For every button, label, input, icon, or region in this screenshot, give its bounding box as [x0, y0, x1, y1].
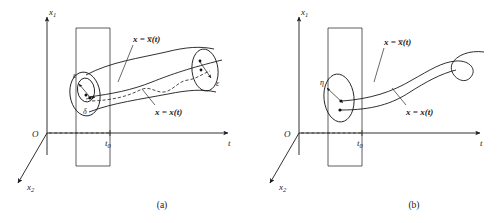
panel-a-endpoint-dot-lower	[200, 69, 203, 72]
panel-a-epsilon-arrow-left	[79, 84, 89, 96]
panel-a-label-x1: x1	[48, 7, 56, 18]
panel-a-label-epsilon-right: ε	[216, 79, 220, 88]
panel-a: x1 x2 t O t0 ε δ ε x = x̅(t) x = x(t) (a…	[18, 7, 231, 211]
panel-a-tube-top-edge	[86, 47, 214, 75]
panel-b-leader-perturbed	[374, 48, 384, 82]
panel-b-label-origin: O	[284, 129, 291, 139]
panel-b-label-t0: t0	[357, 138, 364, 149]
panel-a-label-perturbed-curve: x = x̅(t)	[132, 34, 160, 44]
panel-a-label-t0: t0	[105, 138, 112, 149]
panel-a-caption: (a)	[157, 200, 168, 211]
panel-b-label-perturbed-curve: x = x̅(t)	[383, 37, 411, 47]
panel-b-label-x1: x1	[300, 7, 308, 18]
panel-b-eta-ellipse	[322, 73, 357, 124]
panel-b-axis-x2	[270, 133, 299, 183]
panel-b-label-x2: x2	[278, 182, 287, 193]
panel-b-label-eta: η	[320, 78, 324, 87]
figure-root: x1 x2 t O t0 ε δ ε x = x̅(t) x = x(t) (a…	[0, 0, 498, 223]
panel-a-delta-ellipse-left	[76, 77, 96, 103]
panel-a-axis-x2	[18, 133, 47, 183]
panel-a-label-x2: x2	[26, 182, 35, 193]
panel-a-label-epsilon-left: ε	[73, 71, 77, 80]
panel-b-caption: (b)	[408, 200, 419, 211]
panel-b-label-nominal-curve: x = x(t)	[405, 107, 433, 117]
panel-a-label-t: t	[228, 138, 231, 148]
stability-diagram: x1 x2 t O t0 ε δ ε x = x̅(t) x = x(t) (a…	[0, 0, 498, 223]
panel-b-leader-nominal	[392, 88, 406, 105]
panel-a-endpoint-dot-upper	[199, 60, 202, 63]
panel-a-label-delta-left: δ	[83, 107, 87, 116]
panel-a-leader-perturbed	[118, 45, 133, 82]
panel-b: x1 x2 t O t0 η x = x̅(t) x = x(t) (b)	[270, 7, 484, 211]
panel-a-label-nominal-curve: x = x(t)	[154, 107, 182, 117]
panel-b-perturbed-trajectory	[342, 52, 484, 101]
panel-b-label-t: t	[480, 138, 483, 148]
panel-a-initial-point-nominal	[85, 94, 88, 97]
panel-a-label-origin: O	[32, 129, 39, 139]
panel-b-nominal-trajectory	[341, 70, 456, 110]
